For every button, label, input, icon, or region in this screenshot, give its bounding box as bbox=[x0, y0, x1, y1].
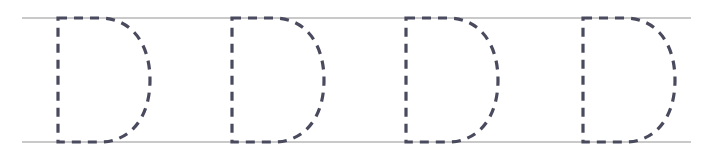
worksheet-canvas bbox=[0, 0, 711, 160]
tracing-worksheet-row: Letter D Tracing Practice Row bbox=[0, 0, 711, 160]
guide-lines-group bbox=[22, 18, 691, 142]
trace-letter-d-2 bbox=[232, 18, 324, 142]
trace-letter-d-3 bbox=[406, 18, 498, 142]
trace-letter-d-1 bbox=[58, 18, 150, 142]
trace-letters-group bbox=[58, 18, 675, 142]
trace-letter-d-4 bbox=[583, 18, 675, 142]
